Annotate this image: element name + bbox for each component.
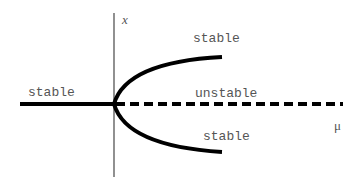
left-branch-label: stable xyxy=(28,85,75,100)
vertical-axis-label: x xyxy=(121,12,128,27)
middle-branch-label: unstable xyxy=(195,86,257,101)
lower-stable-branch xyxy=(114,104,222,152)
lower-branch-label: stable xyxy=(203,129,250,144)
upper-branch-label: stable xyxy=(193,31,240,46)
bifurcation-diagram: x μ stable stable unstable stable xyxy=(0,0,361,187)
horizontal-axis-label: μ xyxy=(334,118,341,133)
